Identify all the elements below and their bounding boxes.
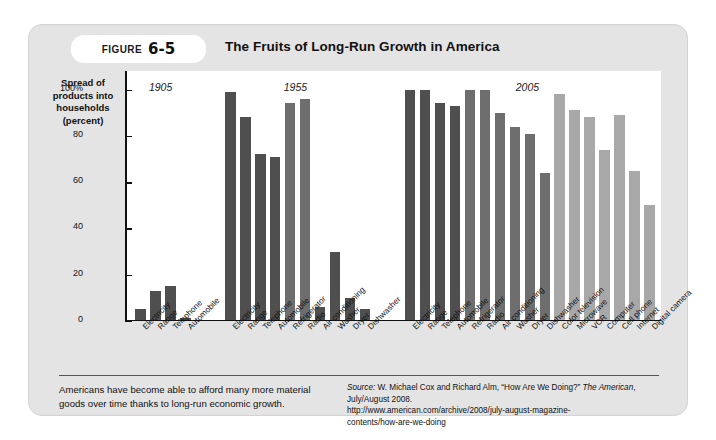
source-label: Source: <box>347 383 375 392</box>
footer-divider <box>59 375 659 376</box>
figure-card: Figure 6-5 The Fruits of Long-Run Growth… <box>28 24 688 416</box>
figure-caption: Americans have become able to afford man… <box>59 383 329 411</box>
x-axis-tick-labels: ElectricityRangeTelephoneAutomobileElect… <box>29 25 687 415</box>
source-url-line-2: contents/how-are-we-doing <box>347 418 446 427</box>
figure-source: Source: W. Michael Cox and Richard Alm, … <box>347 382 665 428</box>
source-magazine: The American <box>583 383 634 392</box>
x-tick-label: Dishwasher <box>366 295 403 332</box>
source-authors: W. Michael Cox and Richard Alm, “How Are… <box>375 383 582 392</box>
source-url-line-1: http://www.american.com/archive/2008/jul… <box>347 406 570 415</box>
